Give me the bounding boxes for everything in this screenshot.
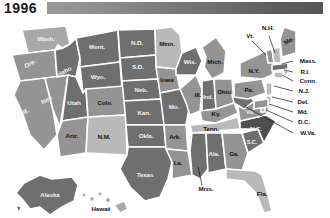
gradient-scale-bar [47, 2, 323, 14]
label-dc: D.C. [298, 119, 310, 125]
label-del: Del. [298, 99, 309, 105]
label-mo: Mo. [169, 104, 179, 110]
label-nj: N.J. [299, 88, 310, 94]
label-ny: N.Y. [249, 68, 260, 74]
figure-header: 1996 [0, 0, 330, 18]
state-dc [261, 108, 265, 112]
label-hawaii: Hawaii [91, 206, 110, 212]
leader-md [269, 104, 293, 112]
label-ark: Ark. [169, 134, 181, 140]
label-okla: Okla. [139, 133, 154, 139]
label-sd: S.D. [132, 64, 144, 70]
map-canvas: .s-lightest{fill:#b9b9b9;} .s-light{fill… [0, 17, 330, 218]
year-title: 1996 [4, 1, 37, 16]
label-ga: Ga. [229, 151, 239, 157]
label-ill: Ill. [195, 92, 201, 98]
label-wash: Wash. [37, 36, 55, 42]
label-ri: R.I. [300, 69, 309, 75]
label-vt: Vt. [246, 33, 254, 39]
label-nm: N.M. [98, 134, 111, 140]
label-mont: Mont. [89, 44, 105, 50]
label-alaska: Alaska [40, 192, 59, 198]
label-ariz: Ariz. [66, 133, 79, 139]
label-colo: Colo. [98, 100, 113, 106]
label-ky: Ky. [212, 111, 221, 117]
label-fla: Fla. [257, 191, 267, 197]
state-conn [274, 72, 283, 78]
label-la: La. [174, 160, 183, 166]
label-minn: Minn. [159, 41, 175, 47]
label-ind: Ind. [203, 94, 213, 100]
label-conn: Conn. [299, 78, 316, 84]
label-mass: Mass. [300, 58, 317, 64]
us-map-figure: 1996 .s-lightest{fill:#b9b9b9;} .s-light… [0, 0, 330, 218]
label-mich: Mich. [207, 59, 222, 65]
label-nd: N.D. [131, 40, 143, 46]
label-sc: S.C. [247, 139, 257, 145]
label-wis: Wis. [184, 59, 196, 65]
label-ohio: Ohio [217, 89, 231, 95]
label-nh: N.H. [262, 25, 274, 31]
label-miss: Miss. [199, 186, 214, 192]
label-nc: N.C. [250, 126, 262, 132]
label-wva: W.Va. [300, 130, 316, 136]
label-texas: Texas [137, 172, 154, 178]
label-iowa: Iowa [160, 77, 173, 83]
state-nj [266, 83, 272, 95]
label-wyo: Wyo. [91, 74, 105, 80]
label-tenn: Tenn. [203, 126, 219, 132]
label-md: Md. [298, 109, 308, 115]
label-va: Va. [246, 109, 254, 115]
leader-vt [252, 41, 266, 55]
label-utah: Utah [67, 100, 80, 106]
state-nh [272, 47, 281, 63]
leader-nj [274, 86, 293, 91]
label-ala: Ala. [209, 151, 220, 157]
leader-del [272, 97, 293, 102]
state-ore [12, 50, 57, 81]
label-kan: Kan. [137, 110, 150, 116]
label-neb: Neb. [134, 87, 147, 93]
label-pa: Pa. [245, 87, 254, 93]
